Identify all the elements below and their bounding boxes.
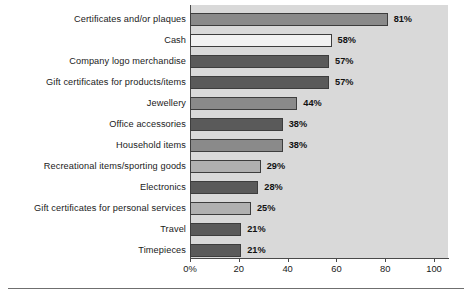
category-label: Jewellery — [0, 93, 186, 114]
x-tick-mark — [336, 258, 337, 262]
bar — [190, 13, 388, 26]
bar-value-label: 21% — [247, 240, 265, 261]
chart-row: Household items38% — [0, 135, 472, 156]
bar-value-label: 28% — [264, 177, 282, 198]
chart-row: Jewellery44% — [0, 93, 472, 114]
bar-track: 28% — [190, 177, 448, 198]
chart-row: Recreational items/sporting goods29% — [0, 156, 472, 177]
bar-value-label: 57% — [335, 72, 353, 93]
bar — [190, 223, 241, 236]
bar — [190, 118, 283, 131]
bar-track: 44% — [190, 93, 448, 114]
chart-row: Certificates and/or plaques81% — [0, 9, 472, 30]
category-label: Certificates and/or plaques — [0, 9, 186, 30]
chart-row: Cash58% — [0, 30, 472, 51]
bar-track: 25% — [190, 198, 448, 219]
x-tick-label: 60 — [316, 263, 356, 274]
x-tick-label: 20 — [219, 263, 259, 274]
category-label: Timepieces — [0, 240, 186, 261]
x-tick-mark — [385, 258, 386, 262]
bar — [190, 55, 329, 68]
x-tick-label: 0% — [170, 263, 210, 274]
chart-row: Gift certificates for personal services2… — [0, 198, 472, 219]
bar — [190, 244, 241, 257]
category-label: Company logo merchandise — [0, 51, 186, 72]
bar — [190, 160, 261, 173]
bar-value-label: 38% — [289, 114, 307, 135]
bar-value-label: 57% — [335, 51, 353, 72]
bar-value-label: 25% — [257, 198, 275, 219]
source-note — [34, 291, 464, 298]
bar-value-label: 58% — [338, 30, 356, 51]
footer-divider — [8, 288, 464, 289]
category-label: Gift certificates for personal services — [0, 198, 186, 219]
category-label: Electronics — [0, 177, 186, 198]
category-label: Gift certificates for products/items — [0, 72, 186, 93]
bar — [190, 76, 329, 89]
bar-track: 21% — [190, 219, 448, 240]
bar-track: 21% — [190, 240, 448, 261]
bar-value-label: 81% — [394, 9, 412, 30]
bar-value-label: 21% — [247, 219, 265, 240]
bar-value-label: 38% — [289, 135, 307, 156]
category-label: Recreational items/sporting goods — [0, 156, 186, 177]
category-label: Office accessories — [0, 114, 186, 135]
x-tick-label: 80 — [365, 263, 405, 274]
category-label: Cash — [0, 30, 186, 51]
x-tick-mark — [239, 258, 240, 262]
chart-row: Travel21% — [0, 219, 472, 240]
bar-track: 29% — [190, 156, 448, 177]
x-tick-label: 100 — [414, 263, 454, 274]
bar-track: 57% — [190, 51, 448, 72]
x-tick-label: 40 — [268, 263, 308, 274]
bar — [190, 34, 332, 47]
x-tick-mark — [434, 258, 435, 262]
bar-track: 81% — [190, 9, 448, 30]
bar — [190, 181, 258, 194]
bar-track: 38% — [190, 114, 448, 135]
bar — [190, 97, 297, 110]
bar — [190, 202, 251, 215]
chart-row: Electronics28% — [0, 177, 472, 198]
category-label: Household items — [0, 135, 186, 156]
bar-track: 38% — [190, 135, 448, 156]
chart-row: Office accessories38% — [0, 114, 472, 135]
chart-row: Company logo merchandise57% — [0, 51, 472, 72]
chart-row: Timepieces21% — [0, 240, 472, 261]
category-label: Travel — [0, 219, 186, 240]
x-tick-mark — [190, 258, 191, 262]
bar-value-label: 44% — [303, 93, 321, 114]
bar-chart-figure: Certificates and/or plaques81%Cash58%Com… — [0, 0, 472, 298]
x-tick-mark — [288, 258, 289, 262]
bar-track: 57% — [190, 72, 448, 93]
bar-value-label: 29% — [267, 156, 285, 177]
chart-row: Gift certificates for products/items57% — [0, 72, 472, 93]
bar — [190, 139, 283, 152]
bar-track: 58% — [190, 30, 448, 51]
